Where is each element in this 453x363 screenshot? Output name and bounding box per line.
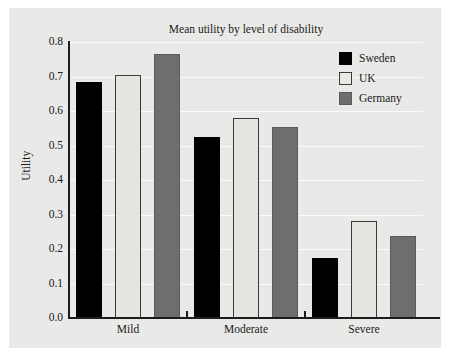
legend-item-sweden[interactable]: Sweden xyxy=(339,50,439,67)
legend-label: Sweden xyxy=(359,53,395,65)
legend-swatch-icon xyxy=(339,52,352,65)
bar-moderate-uk[interactable] xyxy=(233,118,259,318)
y-axis-tick-label: 0.2 xyxy=(13,243,63,255)
chart-legend: SwedenUKGermany xyxy=(339,50,439,110)
x-axis-tick-label-mild: Mild xyxy=(117,324,139,336)
legend-item-germany[interactable]: Germany xyxy=(339,90,439,107)
y-axis-tick-label: 0.7 xyxy=(13,71,63,83)
y-axis-tick-label: 0.1 xyxy=(13,278,63,290)
x-axis-line xyxy=(68,317,440,319)
bar-severe-germany[interactable] xyxy=(390,236,416,318)
figure-canvas: Mean utility by level of disability Util… xyxy=(9,8,441,348)
y-axis-tick-label: 0.5 xyxy=(13,140,63,152)
bar-severe-sweden[interactable] xyxy=(312,258,338,318)
legend-label: UK xyxy=(359,73,376,85)
bar-mild-uk[interactable] xyxy=(115,75,141,318)
bar-severe-uk[interactable] xyxy=(351,221,377,318)
y-axis-tick-label: 0.0 xyxy=(13,312,63,324)
bar-mild-sweden[interactable] xyxy=(76,82,102,318)
chart-title: Mean utility by level of disability xyxy=(69,24,423,36)
y-axis-tick-label: 0.6 xyxy=(13,105,63,117)
x-axis-tick-mark xyxy=(304,311,306,318)
x-axis-tick-label-severe: Severe xyxy=(348,324,379,336)
y-axis-line xyxy=(68,41,70,319)
legend-label: Germany xyxy=(359,93,402,105)
x-axis-tick-mark xyxy=(186,311,188,318)
x-axis-tick-label-moderate: Moderate xyxy=(224,324,268,336)
bar-mild-germany[interactable] xyxy=(154,54,180,318)
legend-swatch-icon xyxy=(339,72,352,85)
gridline xyxy=(69,42,423,43)
legend-swatch-icon xyxy=(339,92,352,105)
bar-moderate-sweden[interactable] xyxy=(194,137,220,318)
y-axis-tick-label: 0.4 xyxy=(13,174,63,186)
y-axis-tick-label: 0.8 xyxy=(13,36,63,48)
y-axis-tick-label: 0.3 xyxy=(13,209,63,221)
bar-moderate-germany[interactable] xyxy=(272,127,298,318)
legend-item-uk[interactable]: UK xyxy=(339,70,439,87)
